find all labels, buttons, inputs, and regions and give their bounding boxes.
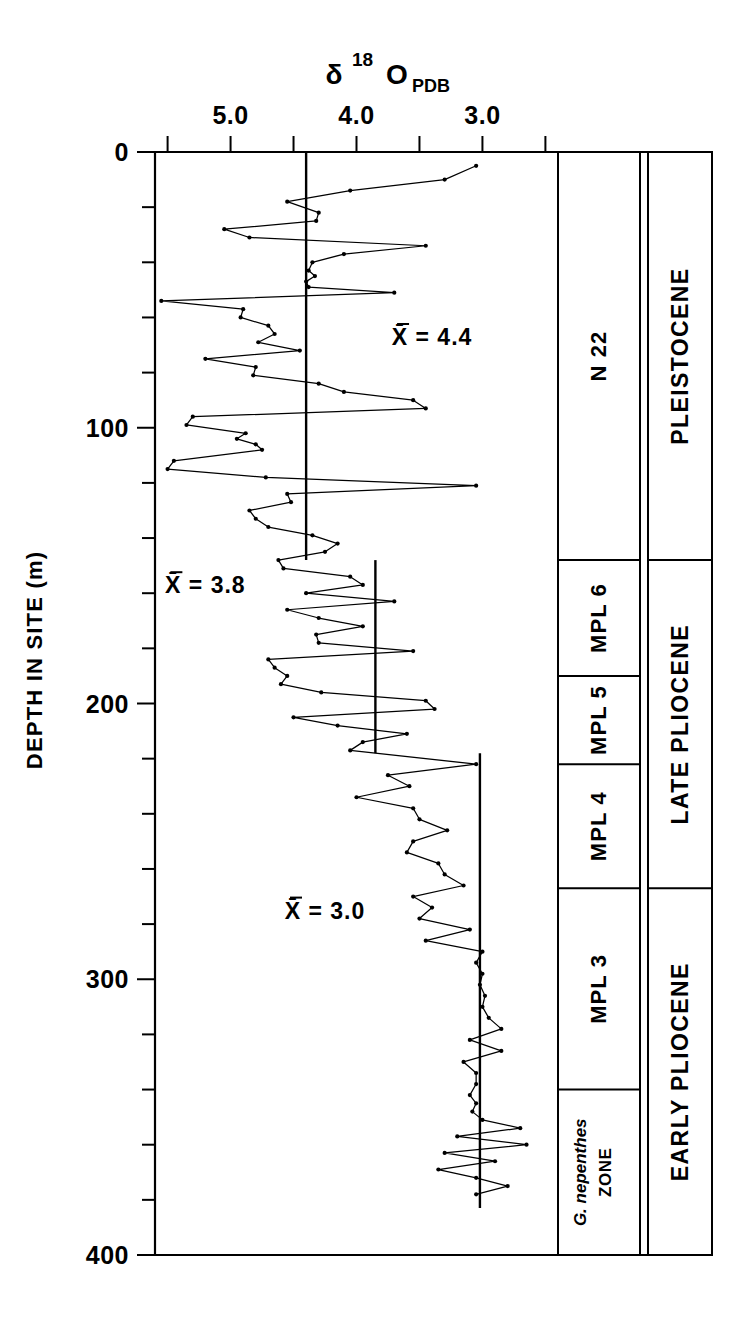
data-point xyxy=(407,784,411,788)
data-point xyxy=(361,583,365,587)
data-point xyxy=(289,500,293,504)
data-point xyxy=(499,1049,503,1053)
data-point xyxy=(424,939,428,943)
x-axis-tick-label-0: 5.0 xyxy=(212,101,248,129)
data-point xyxy=(291,715,295,719)
data-point xyxy=(417,817,421,821)
data-point xyxy=(172,459,176,463)
data-point xyxy=(273,332,277,336)
x-axis-tick-labels: 5.04.03.0 xyxy=(212,101,500,129)
data-point xyxy=(443,177,447,181)
data-point xyxy=(348,189,352,193)
x-axis-tick-label-2: 3.0 xyxy=(464,101,500,129)
axis-title-superscript: 18 xyxy=(352,49,373,70)
data-point xyxy=(455,1134,459,1138)
data-point xyxy=(165,467,169,471)
data-point xyxy=(499,1027,503,1031)
data-point xyxy=(354,795,358,799)
data-point xyxy=(281,566,285,570)
zone-label-italic-5: G. nepenthes xyxy=(571,1118,590,1226)
data-point xyxy=(348,575,352,579)
data-point xyxy=(493,1159,497,1163)
zone-column-group: N 22MPL 6MPL 5MPL 4MPL 3G. nepenthesZONE xyxy=(558,152,640,1255)
data-point xyxy=(424,244,428,248)
data-point xyxy=(405,850,409,854)
mean-lines-group xyxy=(306,152,480,1208)
x-axis-tick-label-1: 4.0 xyxy=(338,101,374,129)
data-point xyxy=(342,252,346,256)
data-point xyxy=(264,475,268,479)
data-point xyxy=(336,541,340,545)
data-point xyxy=(487,1016,491,1020)
data-point xyxy=(285,492,289,496)
epoch-column-group: PLEISTOCENELATE PLIOCENEEARLY PLIOCENE xyxy=(648,152,712,1255)
data-point xyxy=(411,398,415,402)
data-point xyxy=(314,632,318,636)
data-point xyxy=(474,1101,478,1105)
data-point xyxy=(405,732,409,736)
data-point xyxy=(445,828,449,832)
data-point xyxy=(244,431,248,435)
data-point xyxy=(314,219,318,223)
data-point xyxy=(443,872,447,876)
x-axis-ticks xyxy=(155,136,558,152)
mean-annotation-2: X̄ = 3.0 xyxy=(285,898,366,924)
data-point xyxy=(159,299,163,303)
data-point xyxy=(348,748,352,752)
data-point xyxy=(191,415,195,419)
data-point xyxy=(276,558,280,562)
data-point xyxy=(411,806,415,810)
data-point xyxy=(239,315,243,319)
zone-label-0: N 22 xyxy=(586,331,611,382)
zone-label-4: MPL 3 xyxy=(586,954,611,1024)
data-point xyxy=(474,1192,478,1196)
data-point xyxy=(317,616,321,620)
data-point xyxy=(468,1038,472,1042)
y-axis-tick-label-4: 400 xyxy=(86,1241,129,1269)
data-point xyxy=(430,905,434,909)
data-point xyxy=(266,525,270,529)
epoch-label-1: LATE PLIOCENE xyxy=(667,624,693,825)
mean-annotation-1: X̄ = 3.8 xyxy=(165,572,246,598)
data-point xyxy=(247,235,251,239)
data-point xyxy=(474,762,478,766)
data-point xyxy=(474,484,478,488)
data-point xyxy=(285,200,289,204)
data-point xyxy=(317,641,321,645)
data-point xyxy=(483,994,487,998)
y-axis-tick-labels: 0100200300400 xyxy=(86,138,129,1269)
data-point xyxy=(474,961,478,965)
data-point xyxy=(524,1143,528,1147)
data-point xyxy=(285,608,289,612)
axis-title-delta: δ xyxy=(326,59,343,90)
data-point xyxy=(235,437,239,441)
zone-label-5: ZONE xyxy=(596,1147,615,1197)
data-point xyxy=(386,773,390,777)
data-point xyxy=(317,211,321,215)
y-axis-tick-label-1: 100 xyxy=(86,414,129,442)
data-point xyxy=(254,442,258,446)
data-point xyxy=(411,839,415,843)
data-point xyxy=(506,1184,510,1188)
data-point xyxy=(317,382,321,386)
data-point xyxy=(251,373,255,377)
data-point xyxy=(474,1071,478,1075)
data-point xyxy=(443,1151,447,1155)
data-point xyxy=(518,1126,522,1130)
data-point xyxy=(436,861,440,865)
data-point xyxy=(361,740,365,744)
data-point xyxy=(461,1060,465,1064)
y-axis-tick-label-3: 300 xyxy=(86,965,129,993)
data-point xyxy=(470,1110,474,1114)
data-point xyxy=(304,591,308,595)
epoch-label-2: EARLY PLIOCENE xyxy=(667,962,693,1181)
data-point xyxy=(285,674,289,678)
data-point xyxy=(417,916,421,920)
axis-title-element: O xyxy=(386,59,408,90)
data-point xyxy=(436,1167,440,1171)
data-point xyxy=(247,508,251,512)
x-axis-title: δ 18 O PDB xyxy=(326,49,451,96)
data-point xyxy=(313,274,317,278)
data-point xyxy=(411,649,415,653)
data-point xyxy=(474,164,478,168)
